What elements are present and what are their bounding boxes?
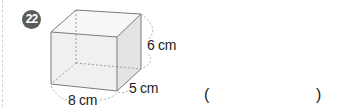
width-label: 5 cm <box>129 80 158 96</box>
answer-open-paren: ( <box>204 86 209 104</box>
answer-close-paren: ) <box>316 86 321 104</box>
answer-blank[interactable] <box>214 86 314 104</box>
length-label: 8 cm <box>68 92 97 107</box>
height-label: 6 cm <box>147 37 176 53</box>
